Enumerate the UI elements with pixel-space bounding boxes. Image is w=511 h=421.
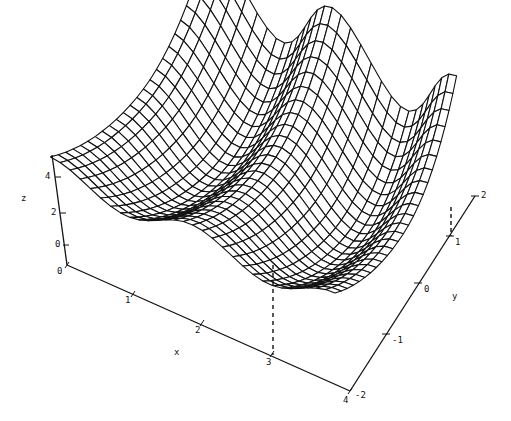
y-tick-label-m2: -2: [355, 391, 366, 400]
surface-plot: [0, 0, 511, 421]
x-tick-label-1: 1: [125, 296, 130, 305]
surface-mesh: [51, 0, 457, 293]
y-tick-label-0: 0: [424, 285, 429, 294]
x-axis-label: x: [174, 348, 179, 357]
z-axis-label: z: [21, 194, 26, 203]
y-tick-label-1: 1: [455, 238, 460, 247]
x-tick-label-2: 2: [195, 326, 200, 335]
z-tick-label-2: 2: [51, 208, 56, 217]
z-tick-label-4: 4: [45, 172, 50, 181]
y-tick-label-2: 2: [481, 191, 486, 200]
y-axis-label: y: [452, 292, 457, 301]
x-tick-label-4: 4: [343, 396, 348, 405]
x-tick-label-3: 3: [266, 358, 271, 367]
y-tick-label-m1: -1: [392, 336, 403, 345]
z-tick-label-0: 0: [55, 240, 60, 249]
x-tick-label-0: 0: [57, 267, 62, 276]
